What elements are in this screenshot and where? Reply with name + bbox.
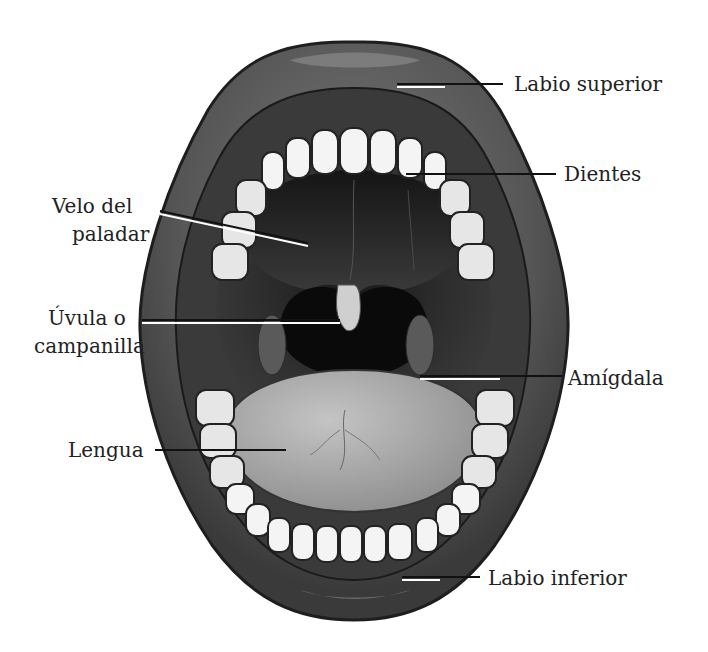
label-dientes: Dientes [564,162,641,186]
label-labio-inferior: Labio inferior [488,566,627,590]
label-labio-superior: Labio superior [514,72,662,96]
label-uvula: Úvula o [48,306,126,330]
tonsil-right [406,315,434,375]
tongue [227,370,482,512]
label-paladar: paladar [72,222,149,246]
label-velo-del: Velo del [52,194,132,218]
label-campanilla: campanilla [34,334,145,358]
mouth-anatomy-diagram: Labio superior Dientes Velo del paladar … [0,0,708,652]
label-amigdala: Amígdala [568,366,664,390]
label-lengua: Lengua [68,438,144,462]
